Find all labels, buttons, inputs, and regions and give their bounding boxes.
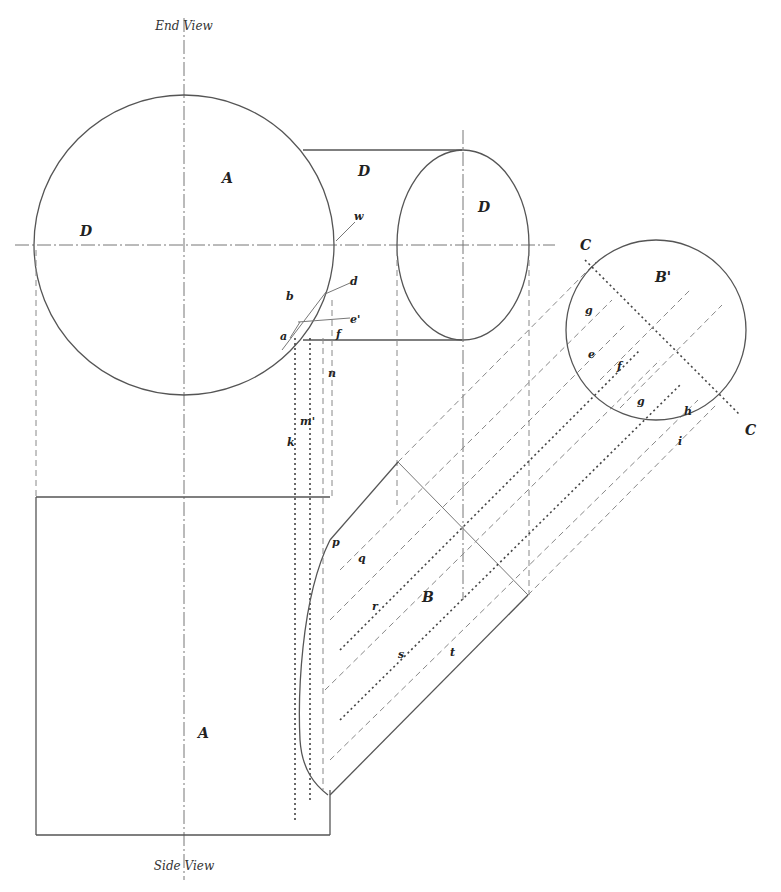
label-e: e'	[350, 313, 360, 326]
label-b-pipe: B	[421, 589, 434, 605]
label-g-circle: g	[585, 304, 593, 317]
label-h-circle: h	[684, 405, 692, 418]
label-r: r	[372, 600, 379, 613]
label-a: a	[280, 330, 287, 343]
end-view-title: End View	[154, 19, 213, 33]
label-d: d	[350, 275, 358, 288]
branch-upper-edge	[330, 462, 398, 540]
label-p: p	[332, 536, 340, 549]
label-m: m'	[300, 415, 315, 428]
label-d-top: D	[357, 163, 371, 179]
end-view	[15, 18, 555, 880]
label-c-bottom: C	[745, 422, 756, 438]
label-w: w	[354, 210, 364, 223]
orthographic-drawing: End View Side View A D D D w d e' f b a …	[0, 0, 781, 892]
label-a-side: A	[196, 725, 209, 741]
label-f: f	[335, 328, 343, 341]
intersection-curve	[299, 540, 330, 795]
label-b-circle: B'	[654, 269, 671, 285]
label-n: n	[328, 367, 336, 380]
section-line	[290, 322, 300, 338]
label-d-left: D	[79, 223, 93, 239]
w-leader	[336, 222, 355, 241]
label-t: t	[450, 646, 455, 659]
label-k: k	[287, 436, 295, 449]
oblique-branch	[325, 240, 746, 795]
label-b: b	[286, 290, 294, 303]
label-d-ellipse: D	[477, 199, 491, 215]
label-s: s	[398, 648, 404, 661]
label-g2-circle: g	[637, 395, 645, 408]
side-view-title: Side View	[154, 859, 215, 873]
label-i-circle: i	[678, 435, 682, 448]
label-a-end: A	[220, 170, 233, 186]
label-c-top: C	[580, 237, 591, 253]
branch-lower-edge	[330, 595, 528, 795]
label-e-circle: e	[588, 348, 595, 361]
branch-upper-ext	[398, 262, 596, 462]
label-q: q	[358, 552, 366, 565]
side-view	[36, 497, 330, 835]
